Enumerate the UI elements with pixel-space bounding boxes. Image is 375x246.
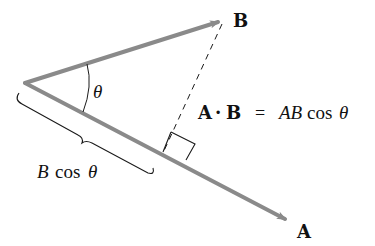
- projection-label-b: B: [37, 161, 49, 182]
- right-angle-marker-left: [163, 132, 171, 152]
- vector-a: [25, 83, 285, 219]
- equation-equals: =: [255, 103, 265, 123]
- equation-dot: ·: [215, 102, 221, 123]
- dot-product-equation: A · B = AB cos θ: [197, 102, 348, 123]
- angle-theta-label: θ: [93, 81, 102, 102]
- equation-rhs-ab: AB: [277, 102, 303, 123]
- vector-b-label: B: [233, 10, 248, 31]
- projection-label-cos: cos: [55, 161, 80, 182]
- right-angle-marker: [171, 132, 195, 160]
- angle-arc: [83, 64, 89, 112]
- equation-lhs-a: A: [197, 102, 213, 123]
- vector-a-label: A: [296, 221, 312, 242]
- equation-rhs-theta: θ: [339, 102, 348, 123]
- projection-label-theta: θ: [88, 161, 97, 182]
- projection-dashed-line: [163, 24, 222, 153]
- vector-b: [25, 22, 218, 83]
- equation-lhs-b: B: [226, 102, 241, 123]
- equation-rhs-cos: cos: [307, 102, 332, 123]
- projection-label: B cos θ: [37, 161, 97, 182]
- dot-product-diagram: θ B A A · B = AB cos θ B cos θ: [0, 0, 375, 246]
